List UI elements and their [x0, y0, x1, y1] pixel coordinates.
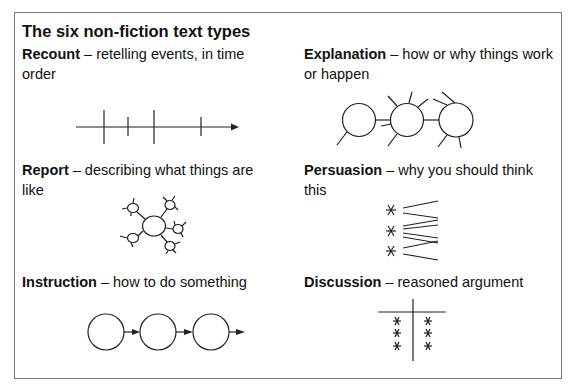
asterisk-icon [393, 317, 401, 325]
asterisk-icon [386, 226, 396, 236]
asterisk-icon [424, 329, 432, 337]
asterisk-icon [424, 317, 432, 325]
timeline-icon [76, 110, 239, 144]
asterisk-icon [424, 342, 432, 350]
persuasion-icon [386, 201, 438, 260]
sequence-arrows-icon [88, 314, 245, 350]
asterisk-icon [393, 329, 401, 337]
spider-web-icon [120, 196, 186, 254]
asterisk-icon [393, 342, 401, 350]
asterisk-icon [386, 246, 396, 256]
asterisk-icon [386, 205, 396, 215]
diagram-drawings [0, 0, 569, 392]
linked-circles-icon [337, 92, 473, 148]
t-chart-icon [378, 299, 446, 361]
